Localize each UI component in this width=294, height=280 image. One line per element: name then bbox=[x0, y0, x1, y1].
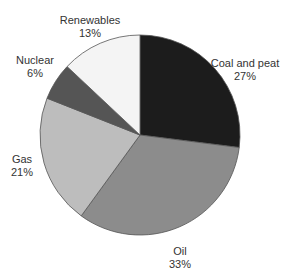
pie-chart bbox=[0, 0, 294, 280]
pie-slice-coal-and-peat bbox=[140, 35, 240, 148]
label-pct: 21% bbox=[11, 166, 33, 179]
label-nuclear: Nuclear 6% bbox=[16, 54, 54, 80]
label-name: Gas bbox=[11, 153, 33, 166]
label-pct: 33% bbox=[169, 258, 191, 271]
label-name: Nuclear bbox=[16, 54, 54, 67]
label-pct: 27% bbox=[211, 70, 280, 83]
label-name: Coal and peat bbox=[211, 57, 280, 70]
label-name: Renewables bbox=[60, 14, 121, 27]
label-renewables: Renewables 13% bbox=[60, 14, 121, 40]
label-name: Oil bbox=[169, 245, 191, 258]
label-pct: 6% bbox=[16, 67, 54, 80]
label-coal-and-peat: Coal and peat 27% bbox=[211, 57, 280, 83]
label-pct: 13% bbox=[60, 27, 121, 40]
label-oil: Oil 33% bbox=[169, 245, 191, 271]
label-gas: Gas 21% bbox=[11, 153, 33, 179]
